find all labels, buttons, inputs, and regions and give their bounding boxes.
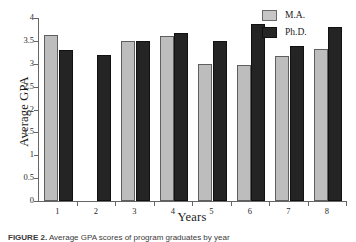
y-axis-tick xyxy=(34,201,39,202)
bar-series-group xyxy=(39,18,346,201)
figure-container: Average GPA 00.511.522.533.54 12345678 Y… xyxy=(0,0,356,242)
bar-ma-year-4[interactable] xyxy=(160,36,174,201)
plot-area: 00.511.522.533.54 12345678 xyxy=(38,18,346,202)
legend-label: M.A. xyxy=(285,10,305,20)
y-axis-tick-label: 3 xyxy=(30,58,34,68)
bar-group xyxy=(39,18,78,201)
bar-phd-year-8[interactable] xyxy=(328,27,342,201)
x-axis-tick xyxy=(346,201,347,206)
y-axis-tick-label: 1 xyxy=(30,149,34,159)
bar-group xyxy=(78,18,117,201)
bar-phd-year-7[interactable] xyxy=(290,46,304,201)
bar-group xyxy=(155,18,194,201)
bar-phd-year-3[interactable] xyxy=(136,41,150,201)
bar-group xyxy=(193,18,232,201)
legend-swatch-ma xyxy=(262,10,277,21)
bar-ma-year-1[interactable] xyxy=(44,35,58,201)
y-axis-tick-label: 0 xyxy=(30,195,34,205)
bar-phd-year-5[interactable] xyxy=(213,41,227,201)
legend-item-ma[interactable]: M.A. xyxy=(262,8,354,22)
y-axis-tick-label: 4 xyxy=(30,12,34,22)
bar-group xyxy=(232,18,271,201)
bar-phd-year-4[interactable] xyxy=(174,33,188,201)
bar-group xyxy=(116,18,155,201)
x-axis-title: Years xyxy=(38,210,346,225)
bar-ma-year-7[interactable] xyxy=(275,56,289,201)
bar-ma-year-8[interactable] xyxy=(314,49,328,201)
chart-legend: M.A.Ph.D. xyxy=(262,8,354,42)
y-axis-tick-label: 2 xyxy=(30,104,34,114)
bar-phd-year-2[interactable] xyxy=(97,55,111,201)
y-axis-tick-label: 2.5 xyxy=(23,81,34,91)
bar-ma-year-5[interactable] xyxy=(198,64,212,201)
figure-caption: FIGURE 2. Average GPA scores of program … xyxy=(8,233,356,242)
bar-ma-year-3[interactable] xyxy=(121,41,135,201)
bar-group xyxy=(270,18,309,201)
y-axis-tick-label: 1.5 xyxy=(23,126,34,136)
bar-group xyxy=(309,18,348,201)
caption-text: Average GPA scores of program graduates … xyxy=(49,233,230,242)
caption-prefix: FIGURE 2. xyxy=(8,233,47,242)
legend-item-phd[interactable]: Ph.D. xyxy=(262,25,354,39)
bar-phd-year-1[interactable] xyxy=(59,50,73,201)
legend-swatch-phd xyxy=(262,27,277,38)
bar-ma-year-6[interactable] xyxy=(237,65,251,201)
y-axis-tick-label: 3.5 xyxy=(23,35,34,45)
bar-phd-year-6[interactable] xyxy=(251,24,265,202)
legend-label: Ph.D. xyxy=(285,27,307,37)
y-axis-tick-label: 0.5 xyxy=(23,172,34,182)
